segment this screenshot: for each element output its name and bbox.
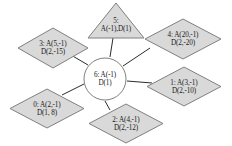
- node-5[interactable]: 5: A(-1),D(1): [87, 2, 145, 39]
- edge-6-to-5: [110, 38, 113, 57]
- node-6-circle-shape: [83, 57, 127, 101]
- node-5-triangle-shape: [87, 2, 145, 39]
- node-0[interactable]: 0: A(2,-1) D(1, 8): [9, 88, 85, 129]
- node-1[interactable]: 1: A(3,-1) D(2,-10): [146, 66, 222, 107]
- node-2[interactable]: 2: A(4,-1) D(2,-12): [88, 103, 164, 144]
- node-4[interactable]: 4: A(20,-1) D(2,-20): [144, 18, 222, 60]
- node-3[interactable]: 3: A(5,-1) D(2,-15): [17, 27, 89, 69]
- diagram-canvas: 5: A(-1),D(1) 3: A(5,-1) D(2,-15) 4: A(2…: [0, 0, 232, 146]
- node-3-diamond-shape: [17, 27, 89, 69]
- node-1-diamond-shape: [146, 66, 222, 107]
- node-4-diamond-shape: [144, 18, 222, 60]
- node-6-center[interactable]: 6: A(-1) D(1): [83, 57, 127, 101]
- node-0-diamond-shape: [9, 88, 85, 129]
- node-2-diamond-shape: [88, 103, 164, 144]
